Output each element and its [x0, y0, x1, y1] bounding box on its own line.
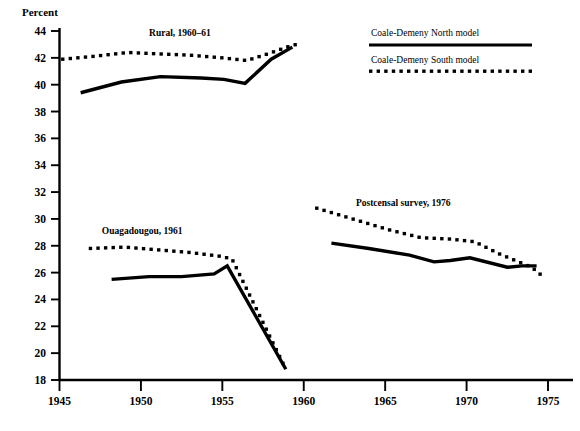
dot-marker	[258, 314, 261, 317]
dot-marker	[175, 53, 178, 56]
dot-marker	[142, 247, 145, 250]
dot-marker	[243, 59, 246, 62]
y-tick-label: 34	[35, 159, 47, 171]
dot-marker	[180, 250, 183, 253]
y-tick-label: 26	[35, 267, 47, 279]
dot-marker	[533, 268, 536, 271]
dot-marker	[403, 232, 406, 235]
dot-marker	[89, 247, 92, 250]
dot-marker	[505, 255, 508, 258]
dot-marker	[425, 236, 428, 239]
dot-marker	[104, 246, 107, 249]
dot-marker	[241, 280, 244, 283]
y-tick-label: 24	[35, 293, 47, 305]
dot-marker	[134, 246, 137, 249]
dot-marker	[440, 237, 443, 240]
dot-marker	[112, 246, 115, 249]
dot-marker	[190, 54, 193, 57]
dot-marker	[359, 220, 362, 223]
dot-marker	[366, 222, 369, 225]
legend-dot	[445, 70, 448, 73]
x-tick-label: 1945	[48, 395, 71, 407]
dot-marker	[76, 56, 79, 59]
dot-marker	[265, 327, 268, 330]
dot-marker	[271, 341, 274, 344]
legend-dot	[369, 70, 372, 73]
dot-marker	[315, 206, 318, 209]
legend-dot	[392, 70, 395, 73]
dot-marker	[225, 256, 228, 259]
dot-marker	[261, 321, 264, 324]
dot-marker	[255, 307, 258, 310]
y-tick-label: 22	[35, 320, 47, 332]
legend-dot	[521, 70, 524, 73]
legend-dot	[498, 70, 501, 73]
dot-marker	[231, 259, 234, 262]
dot-marker	[278, 355, 281, 358]
legend-dot	[437, 70, 440, 73]
dot-marker	[448, 237, 451, 240]
dot-marker	[257, 55, 260, 58]
legend-item-north-label: Coale-Demeny North model	[371, 28, 480, 38]
legend-dot	[491, 70, 494, 73]
legend-dot	[529, 70, 532, 73]
x-tick-label: 1965	[374, 395, 397, 407]
legend-dot	[430, 70, 433, 73]
chart-svg: Percent 1820222426283032343638404244 194…	[0, 0, 580, 431]
y-tick-label: 30	[35, 213, 47, 225]
series-annotation: Rural, 1960–61	[149, 28, 211, 38]
y-tick-label: 28	[35, 240, 47, 252]
x-tick-label: 1960	[292, 395, 315, 407]
dot-marker	[538, 272, 541, 275]
dot-marker	[91, 55, 94, 58]
legend-dot	[453, 70, 456, 73]
dot-marker	[165, 249, 168, 252]
dot-marker	[245, 287, 248, 290]
y-tick-label: 32	[35, 186, 47, 198]
dot-marker	[330, 211, 333, 214]
dot-marker	[272, 50, 275, 53]
dot-marker	[433, 237, 436, 240]
dot-marker	[265, 53, 268, 56]
dot-marker	[144, 52, 147, 55]
legend-dot	[513, 70, 516, 73]
legend-dot	[415, 70, 418, 73]
dot-marker	[213, 55, 216, 58]
legend-dot	[399, 70, 402, 73]
dot-marker	[293, 43, 296, 46]
dot-marker	[69, 57, 72, 60]
x-tick-label: 1955	[211, 395, 234, 407]
dot-marker	[279, 48, 282, 51]
x-tick-label: 1975	[537, 395, 560, 407]
dot-marker	[251, 300, 254, 303]
dot-marker	[61, 57, 64, 60]
y-tick-label: 36	[35, 132, 47, 144]
dot-marker	[187, 251, 190, 254]
dot-marker	[235, 58, 238, 61]
dot-marker	[238, 273, 241, 276]
dot-marker	[470, 240, 473, 243]
dot-marker	[84, 55, 87, 58]
dot-marker	[152, 52, 155, 55]
y-tick-label: 38	[35, 106, 47, 118]
dot-marker	[491, 249, 494, 252]
dot-marker	[373, 224, 376, 227]
dot-marker	[129, 51, 132, 54]
dot-marker	[388, 228, 391, 231]
dot-marker	[202, 253, 205, 256]
dot-marker	[268, 334, 271, 337]
dot-marker	[381, 226, 384, 229]
legend-dot	[384, 70, 387, 73]
dot-marker	[228, 57, 231, 60]
y-tick-label: 44	[35, 25, 47, 37]
legend-dot	[483, 70, 486, 73]
dot-marker	[197, 54, 200, 57]
dot-marker	[463, 239, 466, 242]
dot-marker	[395, 230, 398, 233]
dot-marker	[220, 56, 223, 59]
dot-marker	[498, 252, 501, 255]
x-tick-label: 1950	[129, 395, 152, 407]
dot-marker	[167, 53, 170, 56]
dot-marker	[484, 246, 487, 249]
dot-marker	[137, 51, 140, 54]
